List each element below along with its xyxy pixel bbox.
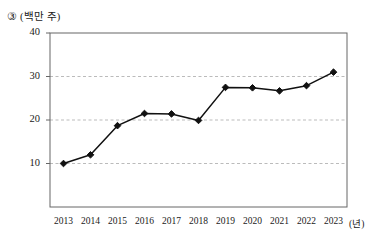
data-point-marker [60,160,67,167]
x-tick-label: 2016 [130,216,160,226]
y-tick-label: 10 [18,157,40,168]
data-point-marker [249,85,256,92]
y-tick-label: 30 [18,70,40,81]
x-tick-label: 2020 [238,216,268,226]
x-tick-label: 2017 [157,216,187,226]
x-tick-label: 2015 [103,216,133,226]
y-tick-label: 20 [18,113,40,124]
x-tick-label: 2021 [265,216,295,226]
data-point-marker [330,69,337,76]
x-tick-label: 2023 [319,216,349,226]
x-tick-label: 2013 [49,216,79,226]
x-tick-label: 2014 [76,216,106,226]
x-tick-label: 2019 [211,216,241,226]
data-point-marker [303,82,310,89]
x-axis-unit-label: (년) [349,216,364,230]
x-tick-label: 2022 [292,216,322,226]
data-point-markers [60,69,337,167]
line-chart-plot [0,0,374,239]
data-point-marker [168,111,175,118]
x-tick-label: 2018 [184,216,214,226]
chart-figure: ③ (백만 주) 10203040 2013201420152016201720… [0,0,374,239]
y-axis-ticks [46,33,50,164]
y-tick-label: 40 [18,26,40,37]
data-point-marker [276,88,283,95]
data-point-marker [141,110,148,117]
